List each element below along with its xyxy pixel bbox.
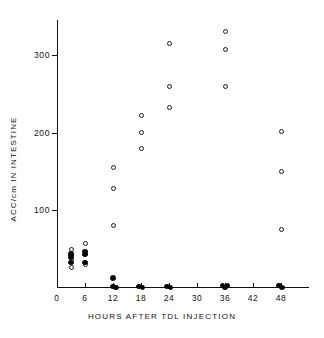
data-point-filled [110, 275, 115, 280]
x-tick-mark [197, 283, 198, 288]
data-point-open [111, 186, 116, 191]
data-point-open [223, 47, 228, 52]
x-tick-mark [85, 283, 86, 288]
data-point-filled [82, 252, 87, 257]
data-point-open [223, 29, 228, 34]
data-point-open [279, 129, 284, 134]
data-point-open [69, 265, 74, 270]
y-tick-label: 100 [34, 205, 50, 215]
y-tick-label: 200 [34, 128, 50, 138]
data-point-open [279, 227, 284, 232]
y-tick-mark [52, 210, 57, 211]
data-point-open [167, 41, 172, 46]
data-point-open [111, 223, 116, 228]
y-tick-mark [52, 55, 57, 56]
data-point-filled [113, 285, 118, 290]
x-tick-mark [253, 283, 254, 288]
y-tick-label: 300 [34, 50, 50, 60]
data-point-filled [279, 285, 284, 290]
x-tick-label: 12 [108, 293, 119, 303]
data-point-open [83, 241, 88, 246]
x-tick-label: 6 [82, 293, 87, 303]
plot-area: 100200300 0612182430364248 [57, 20, 309, 288]
data-point-filled [140, 285, 145, 290]
data-point-open [279, 169, 284, 174]
figure-scatter-plot: ACC/cm IN INTESTINE HOURS AFTER TDL INJE… [0, 0, 324, 338]
data-point-open [167, 105, 172, 110]
data-point-open [139, 113, 144, 118]
y-axis-line [57, 20, 58, 288]
data-point-open [223, 84, 228, 89]
x-axis-title: HOURS AFTER TDL INJECTION [88, 312, 236, 321]
data-point-filled [68, 254, 73, 259]
x-tick-label: 48 [276, 293, 287, 303]
x-axis-line [57, 287, 309, 288]
x-tick-label: 0 [54, 293, 59, 303]
x-tick-label: 24 [164, 293, 175, 303]
data-point-open [167, 84, 172, 89]
y-axis-title: ACC/cm IN INTESTINE [9, 117, 18, 222]
data-point-open [139, 146, 144, 151]
data-point-filled [82, 260, 87, 265]
x-tick-label: 18 [136, 293, 147, 303]
data-point-open [139, 130, 144, 135]
x-tick-label: 36 [220, 293, 231, 303]
data-point-open [111, 165, 116, 170]
x-tick-label: 30 [192, 293, 203, 303]
x-tick-label: 42 [248, 293, 259, 303]
data-point-filled [68, 260, 73, 265]
y-tick-mark [52, 133, 57, 134]
data-point-filled [168, 285, 173, 290]
